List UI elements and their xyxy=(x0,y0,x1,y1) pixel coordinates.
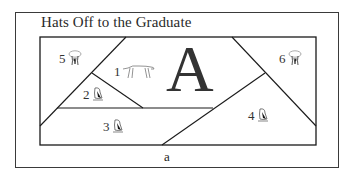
piece-number: 6 xyxy=(279,52,286,65)
piece-1-label: 1 xyxy=(114,63,155,79)
penguin-icon xyxy=(112,118,124,135)
cheetah-icon xyxy=(123,63,155,79)
penguin-icon xyxy=(92,86,104,103)
piece-number: 3 xyxy=(103,120,110,133)
elephant-icon xyxy=(288,50,302,67)
penguin-icon xyxy=(257,107,269,124)
quilt-block-diagram: Hats Off to the Graduate 5 6 1 xyxy=(0,0,352,179)
piece-4-label: 4 xyxy=(248,107,269,124)
block-caption: a xyxy=(164,150,170,163)
piece-3-label: 3 xyxy=(103,118,124,135)
piece-5-label: 5 xyxy=(59,50,82,67)
center-letter: A xyxy=(166,36,214,102)
piece-number: 2 xyxy=(83,88,90,101)
piece-number: 5 xyxy=(59,52,66,65)
piece-number: 1 xyxy=(114,65,121,78)
seam-line-right-diagonal xyxy=(232,37,316,126)
piece-number: 4 xyxy=(248,109,255,122)
piece-2-label: 2 xyxy=(83,86,104,103)
piece-6-label: 6 xyxy=(279,50,302,67)
seam-line-left-diagonal xyxy=(40,37,126,126)
elephant-icon xyxy=(68,50,82,67)
